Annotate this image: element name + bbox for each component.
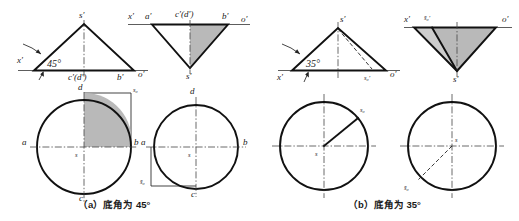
- label-dimension-s0: s₀: [133, 86, 138, 93]
- leader-arrowhead-base: [305, 72, 309, 78]
- label-top-d: d: [190, 86, 195, 96]
- label-base-center-cd: c′(d′): [68, 72, 86, 82]
- dashed-generatrix: [338, 29, 372, 69]
- view-b-top-right-circle: s̄₀ s: [400, 94, 504, 198]
- view-b-front: s′ x′ 35° s₀′ o′: [276, 14, 400, 82]
- label-base-right-b: b′: [117, 72, 125, 82]
- label-top-center-cd: c′(d′): [175, 9, 193, 19]
- label-center-s: s: [75, 151, 78, 158]
- label-right-b: b: [243, 137, 248, 147]
- label-angle-35: 35°: [305, 58, 320, 69]
- label-top-left-a: a′: [145, 11, 153, 21]
- label-center-s: s: [188, 151, 191, 158]
- label-center-s: s: [455, 136, 458, 143]
- view-a-top-left-circle: d a b c s s₀: [22, 82, 139, 203]
- label-axis-o: o′: [390, 69, 398, 79]
- panel-b: s′ x′ 35° s₀′ o′ x′ s̄: [272, 14, 512, 210]
- label-axis-x: x′: [16, 55, 24, 65]
- label-axis-o: o′: [138, 69, 146, 79]
- label-top-right-b: b′: [222, 11, 230, 21]
- view-b-top-left-circle: s₀ s: [272, 94, 376, 198]
- label-radius-s0bar: s̄₀: [404, 184, 409, 191]
- label-angle-45: 45°: [47, 58, 61, 69]
- label-axis-x: x′: [127, 11, 135, 21]
- label-axis-x: x′: [403, 14, 411, 24]
- label-right-b: b: [134, 137, 139, 147]
- caption-panel-a: （a）底角为 45°: [78, 199, 150, 210]
- view-a-top-right-circle: d a b c s s̄₀: [140, 86, 248, 199]
- label-left-a: a: [22, 137, 27, 147]
- label-top-d: d: [78, 82, 83, 92]
- radius-line-solid: [324, 118, 358, 146]
- panel-a: s′ x′ 45° c′(d′) b′ o′ x′ a′ c′(d: [16, 9, 250, 210]
- label-apex-s: s′: [186, 71, 193, 81]
- label-axis-o: o′: [241, 14, 249, 24]
- view-b-side: x′ s̄₀′ o′ s′: [403, 14, 512, 84]
- label-bottom-c: c: [191, 189, 195, 199]
- label-axis-x: x′: [276, 72, 284, 82]
- label-dimension-s0bar: s̄₀: [140, 178, 145, 185]
- label-apex-s: s′: [79, 10, 86, 20]
- technical-drawing-svg: s′ x′ 45° c′(d′) b′ o′ x′ a′ c′(d: [0, 0, 519, 221]
- label-center-s: s: [315, 150, 318, 157]
- label-apex-s: s′: [340, 14, 347, 24]
- label-top-s0bar: s̄₀′: [424, 14, 431, 21]
- label-radius-s0: s₀: [360, 106, 365, 113]
- radius-line-dashed: [418, 146, 452, 180]
- label-base-s0: s₀′: [364, 74, 371, 81]
- leader-arrowhead-slope: [36, 49, 41, 54]
- leader-arrowhead-slope: [295, 49, 300, 54]
- label-left-a: a: [141, 137, 146, 147]
- caption-panel-b: （b）底角为 35°: [348, 199, 421, 210]
- figure-root: s′ x′ 45° c′(d′) b′ o′ x′ a′ c′(d: [0, 0, 519, 221]
- label-apex-s: s′: [453, 74, 460, 84]
- label-axis-o: o′: [502, 14, 510, 24]
